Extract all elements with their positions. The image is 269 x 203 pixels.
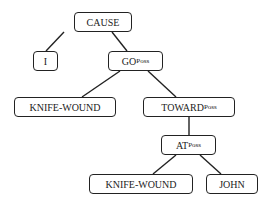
edge-at-john: [200, 155, 221, 174]
node-label: CAUSE: [87, 17, 120, 28]
node-cause: CAUSE: [74, 12, 132, 32]
node-label: TOWARD: [161, 102, 204, 113]
edge-cause-i: [46, 32, 64, 51]
node-i: I: [33, 51, 58, 71]
node-label: KNIFE-WOUND: [29, 102, 100, 113]
node-john: JOHN: [206, 174, 258, 194]
node-label: I: [44, 56, 47, 67]
node-label: AT: [176, 140, 188, 151]
node-at-poss: ATPoss: [161, 135, 216, 155]
node-toward-poss: TOWARDPoss: [143, 97, 235, 117]
node-label: GO: [122, 56, 136, 67]
edge-at-kw2: [153, 155, 176, 174]
edge-go-toward: [148, 71, 176, 97]
node-knife-wound-2: KNIFE-WOUND: [89, 174, 193, 194]
node-subscript: Poss: [204, 103, 217, 111]
edge-go-kw1: [82, 71, 120, 97]
node-label: KNIFE-WOUND: [105, 179, 176, 190]
node-go-poss: GOPoss: [108, 51, 163, 71]
node-knife-wound-1: KNIFE-WOUND: [14, 97, 116, 117]
edge-cause-go: [112, 32, 127, 51]
node-label: JOHN: [219, 179, 245, 190]
node-subscript: Poss: [188, 141, 201, 149]
node-subscript: Poss: [136, 57, 149, 65]
